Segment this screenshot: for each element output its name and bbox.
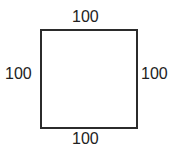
square-shape — [40, 29, 138, 129]
right-side-label: 100 — [141, 66, 168, 82]
top-side-label: 100 — [72, 9, 99, 25]
bottom-side-label: 100 — [72, 131, 99, 147]
left-side-label: 100 — [5, 66, 32, 82]
